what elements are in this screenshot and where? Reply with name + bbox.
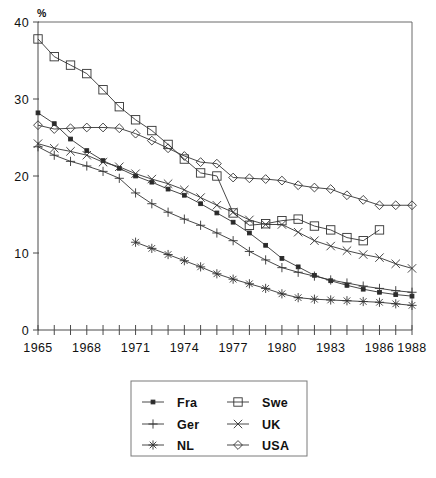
data-point-marker bbox=[229, 275, 238, 284]
data-point-marker bbox=[36, 111, 40, 115]
data-point-marker bbox=[375, 298, 384, 307]
legend-label: Fra bbox=[177, 396, 198, 410]
x-tick-label: 1986 bbox=[365, 341, 394, 355]
legend-label: Swe bbox=[262, 396, 288, 410]
y-tick-label: 0 bbox=[22, 324, 29, 338]
chart-background bbox=[0, 0, 436, 478]
data-point-marker bbox=[264, 243, 268, 247]
data-point-marker bbox=[85, 149, 89, 153]
data-point-marker bbox=[326, 295, 335, 304]
data-point-marker bbox=[180, 256, 189, 265]
data-point-marker bbox=[280, 256, 284, 260]
y-tick-label: 10 bbox=[14, 247, 29, 261]
x-tick-label: 1980 bbox=[267, 341, 296, 355]
y-axis-unit-label: % bbox=[37, 7, 47, 19]
data-point-marker bbox=[182, 193, 186, 197]
data-point-marker bbox=[231, 220, 235, 224]
data-point-marker bbox=[391, 299, 400, 308]
data-point-marker bbox=[310, 295, 319, 304]
data-point-marker bbox=[277, 289, 286, 298]
data-point-marker bbox=[294, 293, 303, 302]
line-chart: 010203040 196519681971197419771980198319… bbox=[0, 0, 436, 478]
legend-label: Ger bbox=[177, 418, 199, 432]
data-point-marker bbox=[196, 262, 205, 271]
data-point-marker bbox=[261, 284, 270, 293]
data-point-marker bbox=[245, 279, 254, 288]
y-tick-label: 30 bbox=[14, 93, 29, 107]
x-tick-label: 1968 bbox=[72, 341, 101, 355]
x-tick-label: 1965 bbox=[23, 341, 52, 355]
legend-label: USA bbox=[262, 439, 289, 453]
data-point-marker bbox=[148, 440, 157, 449]
y-tick-label: 40 bbox=[14, 16, 29, 30]
data-point-marker bbox=[199, 202, 203, 206]
y-tick-label: 20 bbox=[14, 170, 29, 184]
data-point-marker bbox=[166, 187, 170, 191]
x-tick-label: 1974 bbox=[170, 341, 199, 355]
data-point-marker bbox=[163, 250, 172, 259]
data-point-marker bbox=[147, 244, 156, 253]
data-point-marker bbox=[151, 400, 155, 404]
x-tick-label: 1977 bbox=[218, 341, 247, 355]
data-point-marker bbox=[342, 296, 351, 305]
data-point-marker bbox=[359, 297, 368, 306]
x-axis-tick-labels: 196519681971197419771980198319861988 bbox=[23, 341, 426, 355]
data-point-marker bbox=[407, 301, 416, 310]
legend-label: UK bbox=[262, 418, 281, 432]
legend-label: NL bbox=[177, 439, 194, 453]
data-point-marker bbox=[212, 269, 221, 278]
x-tick-label: 1988 bbox=[397, 341, 426, 355]
x-tick-label: 1983 bbox=[316, 341, 345, 355]
data-point-marker bbox=[215, 211, 219, 215]
chart-figure: 010203040 196519681971197419771980198319… bbox=[0, 0, 436, 478]
data-point-marker bbox=[247, 231, 251, 235]
data-point-marker bbox=[69, 137, 73, 141]
data-point-marker bbox=[131, 238, 140, 247]
x-tick-label: 1971 bbox=[121, 341, 150, 355]
